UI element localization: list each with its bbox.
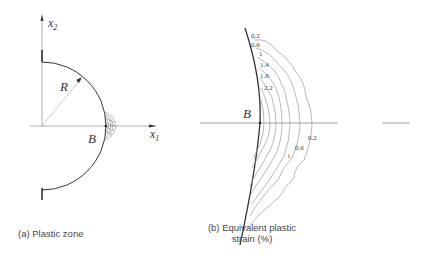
contour-label: 0.2 bbox=[251, 32, 260, 40]
strain-contours bbox=[248, 40, 312, 228]
contour-label: 2.2 bbox=[264, 84, 273, 92]
radius-label: R bbox=[59, 79, 68, 94]
contour-label: 0.6 bbox=[251, 41, 260, 49]
caption-b-line2: strain (%) bbox=[192, 233, 312, 244]
contour-labels-bottom: 0.2 0.6 1 bbox=[287, 134, 317, 160]
hole-boundary-zoomed bbox=[240, 28, 260, 245]
point-b-marker-zoomed bbox=[259, 122, 261, 124]
caption-b: (b) Equivalent plastic strain (%) bbox=[192, 222, 312, 244]
x2-label: x2 bbox=[47, 16, 57, 32]
point-b-marker bbox=[105, 125, 107, 127]
x2-axis-arrow bbox=[41, 14, 44, 21]
contour-label: 1.4 bbox=[260, 61, 269, 69]
contour-0.6 bbox=[250, 48, 300, 216]
contour-label: 1 bbox=[287, 152, 291, 160]
panel-b: 0.2 0.6 1 1.4 1.8 2.2 0.2 0.6 1 B bbox=[200, 28, 410, 245]
caption-b-line1: (b) Equivalent plastic bbox=[192, 222, 312, 233]
point-b-label-zoomed: B bbox=[243, 106, 251, 121]
radius-arrow bbox=[76, 77, 82, 83]
contour-label: 1 bbox=[259, 50, 263, 58]
x1-label: x1 bbox=[149, 127, 159, 143]
contour-0.2 bbox=[248, 40, 312, 228]
contour-label: 0.2 bbox=[308, 134, 317, 142]
contour-label: 0.6 bbox=[295, 144, 304, 152]
caption-a: (a) Plastic zone bbox=[18, 228, 83, 239]
point-b-label: B bbox=[88, 131, 96, 146]
panel-a: x2 x1 R B bbox=[30, 14, 159, 200]
contour-label: 1.8 bbox=[260, 72, 269, 80]
